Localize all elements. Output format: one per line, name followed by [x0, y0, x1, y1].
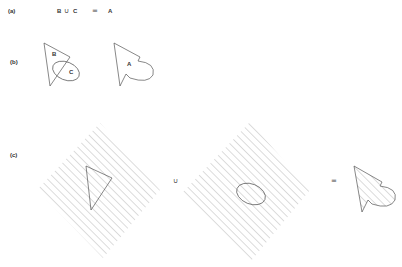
panel-c-label: (c) — [10, 152, 17, 158]
expr-left-set: B — [57, 8, 62, 14]
result-a-hatched — [350, 162, 400, 216]
equals-symbol: = — [92, 7, 98, 15]
complement-c-hatched-region — [178, 118, 313, 266]
equals-symbol-c: = — [331, 177, 337, 185]
panel-b-label: (b) — [10, 59, 18, 65]
shape-a-union — [114, 43, 153, 86]
region-label-a: A — [127, 61, 132, 67]
region-label-c: C — [69, 69, 74, 75]
ellipse-c — [50, 57, 83, 84]
region-label-b: B — [52, 51, 57, 57]
complement-b-hatched-region — [30, 118, 165, 263]
panel-a-label: (a) — [8, 8, 15, 14]
union-symbol-c: ∪ — [173, 177, 178, 185]
set-union-diagram: (a) B ∪ C = A (b) B C A (c) ∪ = — [0, 0, 402, 267]
union-symbol: ∪ — [64, 7, 69, 15]
expr-result-set: A — [108, 8, 113, 14]
triangle-b — [44, 43, 70, 86]
expr-right-set: C — [73, 8, 78, 14]
